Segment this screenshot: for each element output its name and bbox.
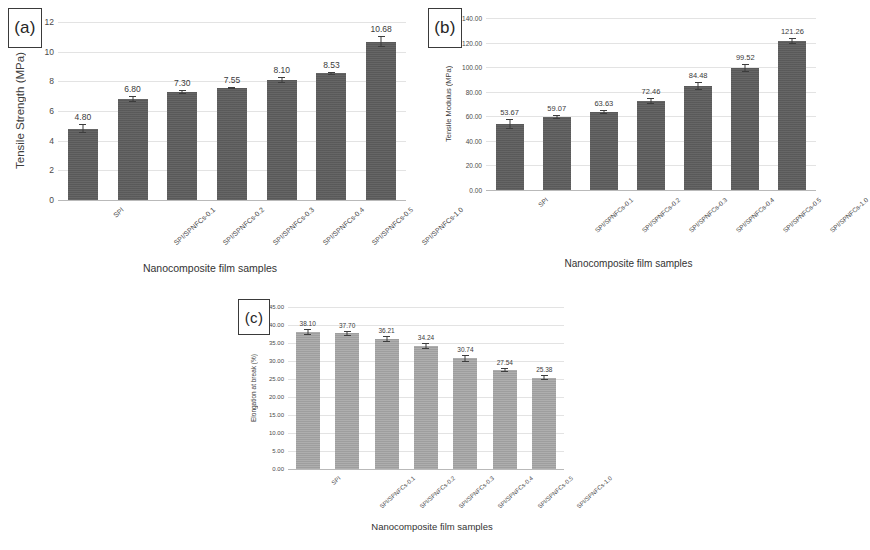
error-bar — [504, 368, 505, 372]
y-axis-tick-label: 12 — [45, 17, 54, 27]
bar — [167, 92, 197, 200]
bar-group: 8.10 — [257, 22, 307, 200]
bar-group: 7.30 — [157, 22, 207, 200]
y-axis-tick-label: 20.00 — [466, 162, 482, 169]
error-bar — [792, 38, 793, 44]
x-axis-tick-label: SPI/SPNFCs-0.1 — [172, 206, 216, 246]
y-axis-tick-label: 30.00 — [269, 358, 284, 364]
bar — [118, 99, 148, 200]
panel-label-a: (a) — [8, 8, 42, 48]
bar-group: 63.63 — [580, 18, 627, 190]
y-axis-title-a: Tensile Strength (MPa) — [14, 22, 30, 200]
error-bar — [347, 331, 348, 336]
x-axis-line — [486, 190, 816, 191]
x-axis-tick-label: SPI — [330, 475, 341, 486]
y-axis-ticks-a: 121086420 — [30, 22, 54, 200]
y-axis-tick-label: 0.00 — [469, 187, 482, 194]
bar — [543, 117, 571, 190]
y-axis-tick-label: 40.00 — [466, 137, 482, 144]
y-axis-tick-label: 8 — [49, 76, 54, 86]
bar-group: 53.67 — [486, 18, 533, 190]
bar-value-label: 38.10 — [300, 320, 316, 327]
bar — [590, 112, 618, 190]
error-bar — [556, 115, 557, 119]
y-axis-tick-label: 35.00 — [269, 340, 284, 346]
bar-value-label: 30.74 — [457, 346, 473, 353]
y-axis-tick-label: 0.00 — [272, 466, 284, 472]
bar — [731, 68, 759, 190]
x-axis-tick-label: SPI — [536, 196, 548, 208]
y-axis-tick-label: 25.00 — [269, 376, 284, 382]
error-bar — [745, 64, 746, 72]
bar — [778, 41, 806, 190]
y-axis-tick-label: 140.00 — [462, 15, 482, 22]
x-axis-tick-label: SPI/SPNFCs-0.4 — [497, 475, 534, 510]
bar-group: 84.48 — [675, 18, 722, 190]
y-axis-tick-label: 10 — [45, 47, 54, 57]
bar-value-label: 53.67 — [500, 108, 519, 117]
bar — [375, 339, 399, 469]
bar-group: 6.80 — [108, 22, 158, 200]
y-axis-tick-label: 15.00 — [269, 412, 284, 418]
bar — [414, 346, 438, 469]
bar-group: 8.53 — [307, 22, 357, 200]
bar-group: 25.38 — [525, 307, 564, 469]
bar-value-label: 34.24 — [418, 334, 434, 341]
bar — [335, 333, 359, 469]
x-axis-labels-a: SPISPI/SPNFCs-0.1SPI/SPNFCs-0.2SPI/SPNFC… — [58, 202, 406, 260]
bar-value-label: 63.63 — [594, 99, 613, 108]
y-axis-tick-label: 0 — [49, 195, 54, 205]
bar-value-label: 84.48 — [689, 71, 708, 80]
plot-area-c: 38.1037.7036.2134.2430.7427.5425.38 — [288, 307, 564, 469]
x-axis-tick-label: SPI/SPNFCs-1.0 — [576, 475, 613, 510]
error-bar — [182, 90, 183, 94]
error-bar — [231, 87, 232, 90]
error-bar — [698, 82, 699, 90]
bar-value-label: 8.53 — [323, 60, 340, 70]
bar-group: 99.52 — [722, 18, 769, 190]
bar-value-label: 8.10 — [273, 65, 290, 75]
error-bar — [425, 343, 426, 349]
bar-value-label: 37.70 — [339, 322, 355, 329]
y-axis-tick-label: 20.00 — [269, 394, 284, 400]
x-axis-tick-label: SPI/SPNFCs-0.3 — [458, 475, 495, 510]
y-axis-tick-label: 5.00 — [272, 448, 284, 454]
error-bar — [509, 119, 510, 129]
bar — [637, 101, 665, 190]
error-bar — [603, 110, 604, 114]
x-axis-tick-label: SPI/SPNFCs-0.1 — [379, 475, 416, 510]
bar-value-label: 72.46 — [642, 87, 661, 96]
x-axis-tick-label: SPI/SPNFCs-0.1 — [593, 196, 634, 234]
bar — [296, 332, 320, 469]
x-axis-tick-label: SPI/SPNFCs-0.5 — [536, 475, 573, 510]
y-axis-tick-label: 6 — [49, 106, 54, 116]
x-axis-tick-label: SPI/SPNFCs-0.4 — [321, 206, 365, 246]
bar — [366, 42, 396, 200]
error-bar — [307, 329, 308, 335]
panel-label-b: (b) — [428, 8, 462, 48]
error-bar — [544, 375, 545, 379]
bar-value-label: 36.21 — [378, 327, 394, 334]
bar-value-label: 27.54 — [497, 359, 513, 366]
x-axis-tick-label: SPI/SPNFCs-0.3 — [688, 196, 729, 234]
bar — [493, 370, 517, 469]
bar-group: 10.68 — [356, 22, 406, 200]
bar-value-label: 6.80 — [124, 84, 141, 94]
error-bar — [331, 72, 332, 76]
x-axis-tick-label: SPI — [112, 206, 125, 219]
error-bar — [386, 336, 387, 342]
x-axis-tick-label: SPI/SPNFCs-0.4 — [735, 196, 776, 234]
bars-b: 53.6759.0763.6372.4684.4899.52121.26 — [486, 18, 816, 190]
bar-group: 37.70 — [327, 307, 366, 469]
chart-panel-b: (b) Tensile Modulus (MPa) 140.00120.0010… — [420, 0, 837, 292]
x-axis-title-b: Nanocomposite film samples — [420, 258, 837, 269]
bar-value-label: 10.68 — [370, 24, 391, 34]
y-axis-tick-label: 45.00 — [269, 304, 284, 310]
bar-group: 27.54 — [485, 307, 524, 469]
x-axis-tick-label: SPI/SPNFCs-0.3 — [271, 206, 315, 246]
bar — [68, 129, 98, 200]
error-bar — [465, 355, 466, 361]
plot-area-a: 4.806.807.307.558.108.5310.68 — [58, 22, 406, 200]
y-axis-tick-label: 120.00 — [462, 39, 482, 46]
bar-value-label: 7.55 — [224, 75, 241, 85]
